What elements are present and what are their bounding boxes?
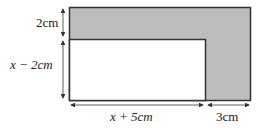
inner-white-rectangle — [70, 40, 206, 101]
label-inner-height: x − 2cm — [10, 58, 53, 71]
label-right-strip-width: 3cm — [216, 110, 238, 123]
label-inner-width: x + 5cm — [110, 110, 153, 123]
label-top-strip-height: 2cm — [36, 16, 58, 29]
